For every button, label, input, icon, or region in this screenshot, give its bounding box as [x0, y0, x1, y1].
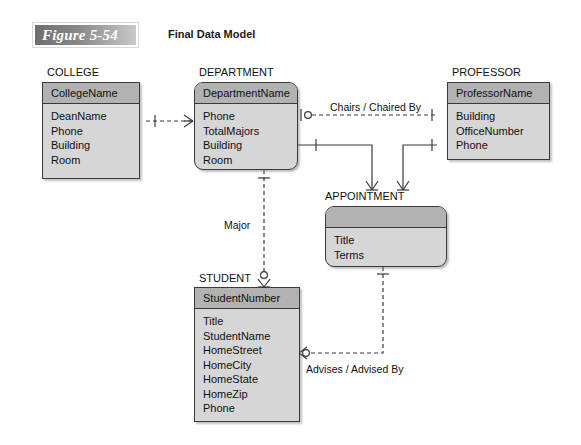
attribute: Building [203, 138, 289, 153]
entity-student-identifier: StudentNumber [195, 288, 299, 309]
attribute: HomeStreet [203, 343, 291, 358]
attribute: Room [203, 153, 289, 168]
attribute: Terms [334, 248, 438, 263]
attribute: Title [203, 314, 291, 329]
attribute: Room [51, 153, 131, 168]
connector-advises [299, 267, 389, 359]
figure-number-badge: Figure 5-54 [33, 23, 138, 47]
entity-label-department: DEPARTMENT [199, 66, 274, 78]
attribute: HomeZip [203, 387, 291, 402]
entity-appointment-attributes: Title Terms [326, 228, 446, 267]
attribute: HomeCity [203, 358, 291, 373]
figure-title: Final Data Model [168, 28, 255, 40]
entity-department[interactable]: DepartmentName Phone TotalMajors Buildin… [194, 82, 298, 170]
entity-label-appointment: APPOINTMENT [325, 190, 404, 202]
er-diagram-page: Figure 5-54 Final Data Model [0, 0, 581, 445]
figure-caption-bar: Figure 5-54 Final Data Model [0, 0, 581, 60]
entity-college-attributes: DeanName Phone Building Room [43, 104, 139, 172]
entity-professor-identifier: ProfessorName [448, 83, 549, 104]
entity-appointment[interactable]: Title Terms [325, 206, 447, 267]
entity-professor-attributes: Building OfficeNumber Phone [448, 104, 549, 158]
entity-label-professor: PROFESSOR [452, 66, 521, 78]
entity-college-identifier: CollegeName [43, 83, 139, 104]
connector-college-department [146, 115, 193, 127]
entity-department-attributes: Phone TotalMajors Building Room [195, 104, 297, 172]
figure-number-label: Figure 5-54 [42, 27, 118, 44]
attribute: DeanName [51, 109, 131, 124]
attribute: OfficeNumber [456, 124, 541, 139]
entity-appointment-identifier [326, 207, 446, 228]
relationship-label-major: Major [224, 219, 250, 231]
entity-college[interactable]: CollegeName DeanName Phone Building Room [42, 82, 140, 179]
attribute: Title [334, 233, 438, 248]
entity-label-college: COLLEGE [47, 66, 99, 78]
connector-department-appointment [298, 139, 378, 190]
attribute: TotalMajors [203, 124, 289, 139]
entity-student[interactable]: StudentNumber Title StudentName HomeStre… [194, 287, 300, 422]
entity-department-identifier: DepartmentName [195, 83, 297, 104]
connector-professor-appointment [397, 139, 437, 190]
connector-major [258, 170, 270, 287]
relationship-label-chairs: Chairs / Chaired By [330, 101, 421, 113]
attribute: Phone [456, 138, 541, 153]
relationship-label-advises: Advises / Advised By [306, 363, 403, 375]
entity-professor[interactable]: ProfessorName Building OfficeNumber Phon… [447, 82, 550, 160]
attribute: Phone [203, 109, 289, 124]
attribute: Phone [51, 124, 131, 139]
entity-student-attributes: Title StudentName HomeStreet HomeCity Ho… [195, 309, 299, 421]
attribute: HomeState [203, 372, 291, 387]
attribute: Building [456, 109, 541, 124]
attribute: Building [51, 138, 131, 153]
entity-label-student: STUDENT [199, 272, 251, 284]
attribute: StudentName [203, 329, 291, 344]
attribute: Phone [203, 401, 291, 416]
